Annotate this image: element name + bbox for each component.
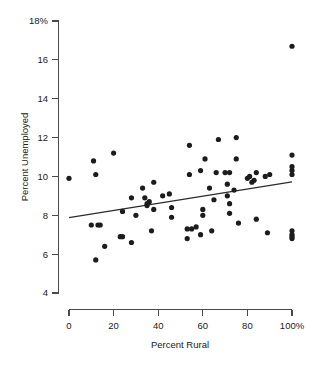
data-point — [151, 180, 156, 185]
regression-line — [69, 182, 292, 218]
x-axis-title: Percent Rural — [151, 339, 209, 350]
data-point — [102, 244, 107, 249]
data-point — [247, 174, 252, 179]
data-point — [187, 143, 192, 148]
y-axis-tick-labels: 4681012141618% — [29, 15, 49, 298]
data-point — [93, 257, 98, 262]
data-points — [66, 44, 294, 263]
x-tick-label: 80 — [242, 320, 253, 331]
data-point — [194, 224, 199, 229]
data-point — [160, 193, 165, 198]
data-point — [207, 185, 212, 190]
data-point — [66, 176, 71, 181]
data-point — [91, 158, 96, 163]
data-point — [198, 232, 203, 237]
y-tick-label: 10 — [37, 171, 48, 182]
data-point — [234, 135, 239, 140]
x-tick-label: 100% — [280, 320, 305, 331]
data-point — [231, 187, 236, 192]
x-tick-label: 60 — [198, 320, 209, 331]
data-point — [227, 170, 232, 175]
data-point — [169, 205, 174, 210]
data-point — [185, 226, 190, 231]
data-point — [265, 230, 270, 235]
plot-canvas: 4681012141618% Percent Unemployed 020406… — [0, 0, 315, 367]
data-point — [185, 236, 190, 241]
data-point — [211, 197, 216, 202]
data-point — [225, 193, 230, 198]
y-tick-label: 12 — [37, 132, 48, 143]
data-point — [111, 151, 116, 156]
data-point — [198, 168, 203, 173]
data-point — [129, 195, 134, 200]
data-point — [89, 222, 94, 227]
y-tick-label: 16 — [37, 54, 48, 65]
data-point — [263, 174, 268, 179]
data-point — [133, 213, 138, 218]
data-point — [202, 156, 207, 161]
data-point — [227, 201, 232, 206]
x-tick-label: 40 — [153, 320, 164, 331]
data-point — [216, 137, 221, 142]
x-tick-label: 20 — [108, 320, 119, 331]
data-point — [187, 172, 192, 177]
data-point — [209, 228, 214, 233]
y-axis-ticks — [52, 21, 59, 293]
data-point — [254, 217, 259, 222]
data-point — [236, 220, 241, 225]
scatter-chart: 4681012141618% Percent Unemployed 020406… — [0, 0, 315, 367]
x-axis: 020406080100% Percent Rural — [66, 310, 304, 351]
y-axis-title: Percent Unemployed — [19, 113, 30, 202]
data-point — [289, 152, 294, 157]
data-point — [254, 170, 259, 175]
x-axis-ticks — [69, 310, 292, 317]
x-axis-tick-labels: 020406080100% — [66, 320, 304, 331]
y-tick-label: 4 — [43, 287, 48, 298]
data-point — [267, 172, 272, 177]
data-point — [251, 178, 256, 183]
data-point — [289, 172, 294, 177]
data-point — [151, 207, 156, 212]
data-point — [225, 182, 230, 187]
data-point — [214, 170, 219, 175]
data-point — [120, 234, 125, 239]
y-tick-label: 6 — [43, 249, 48, 260]
data-point — [227, 211, 232, 216]
data-point — [93, 172, 98, 177]
regression-line-segment — [69, 182, 292, 218]
data-point — [200, 213, 205, 218]
data-point — [129, 240, 134, 245]
data-point — [120, 209, 125, 214]
data-point — [149, 228, 154, 233]
data-point — [142, 195, 147, 200]
y-axis: 4681012141618% Percent Unemployed — [19, 15, 59, 298]
data-point — [98, 222, 103, 227]
y-tick-label: 14 — [37, 93, 48, 104]
data-point — [289, 236, 294, 241]
data-point — [169, 215, 174, 220]
data-point — [234, 156, 239, 161]
data-point — [167, 191, 172, 196]
data-point — [289, 44, 294, 49]
y-tick-label: 18% — [29, 15, 49, 26]
x-tick-label: 0 — [66, 320, 71, 331]
y-tick-label: 8 — [43, 210, 48, 221]
data-point — [223, 170, 228, 175]
data-point — [147, 199, 152, 204]
data-point — [189, 226, 194, 231]
data-point — [200, 207, 205, 212]
data-point — [140, 185, 145, 190]
